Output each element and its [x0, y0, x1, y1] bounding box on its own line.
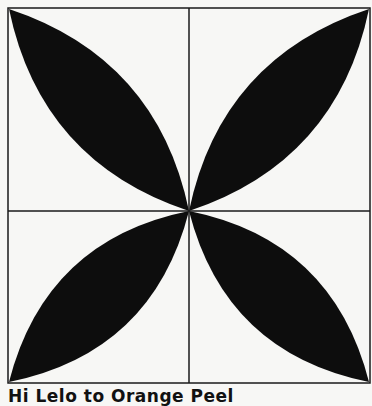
- figure-caption: Hi Lelo to Orange Peel: [8, 386, 234, 406]
- quilt-block: [0, 0, 372, 386]
- petal-bottom-right: [189, 211, 369, 382]
- petal-top-left: [9, 9, 189, 211]
- petal-bottom-left: [9, 211, 189, 382]
- petal-top-right: [189, 9, 369, 211]
